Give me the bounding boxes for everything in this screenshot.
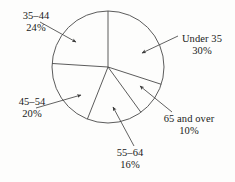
- slice-label-45-54: 45–54 20%: [4, 96, 60, 119]
- slice-label-under-35-percent: 30%: [172, 45, 232, 57]
- slice-label-65-and-over-name: 65 and over: [164, 113, 215, 124]
- slice-label-35-44-percent: 24%: [8, 22, 64, 34]
- slice-label-65-and-over: 65 and over 10%: [146, 113, 232, 136]
- slice-label-45-54-percent: 20%: [4, 108, 60, 120]
- slice-boundary-65over-5564: [108, 67, 141, 112]
- slice-boundary-4554-3544: [52, 63, 108, 67]
- pie-chart-figure: 35–44 24% Under 35 30% 65 and over 10% 5…: [0, 0, 235, 182]
- slice-label-35-44-name: 35–44: [23, 10, 50, 21]
- slice-label-65-and-over-percent: 10%: [146, 125, 232, 137]
- slice-label-45-54-name: 45–54: [19, 96, 46, 107]
- slice-label-55-64-percent: 16%: [102, 159, 158, 171]
- slice-label-55-64: 55–64 16%: [102, 147, 158, 170]
- leader-line-65-and-over: [140, 86, 172, 112]
- slice-label-under-35-name: Under 35: [182, 33, 222, 44]
- slice-boundary-5564-4554: [87, 67, 108, 119]
- slice-label-under-35: Under 35 30%: [172, 33, 232, 56]
- slice-label-55-64-name: 55–64: [117, 147, 144, 158]
- leader-line-55-64: [113, 107, 134, 146]
- slice-boundary-under35-65over: [108, 67, 161, 84]
- slice-label-35-44: 35–44 24%: [8, 10, 64, 33]
